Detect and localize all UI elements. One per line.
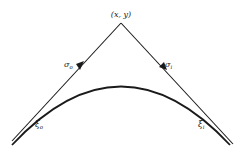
xi-o-sub: o — [40, 124, 44, 130]
xi-o-label: ξo — [35, 119, 44, 130]
sigma-o-label: σo — [64, 60, 73, 70]
outgoing-ray — [121, 23, 233, 144]
ray-diagram: (x, y) σo σi ξo ξi — [0, 0, 240, 150]
sigma-i-sub: i — [170, 64, 172, 70]
incoming-ray — [12, 23, 121, 141]
arrow-up-right-icon — [76, 61, 84, 70]
apex-label: (x, y) — [111, 10, 131, 19]
xi-i-sub: i — [203, 124, 205, 130]
sigma-o-sub: o — [69, 64, 73, 70]
boundary-curve — [12, 87, 230, 146]
sigma-i-label: σi — [165, 60, 172, 70]
